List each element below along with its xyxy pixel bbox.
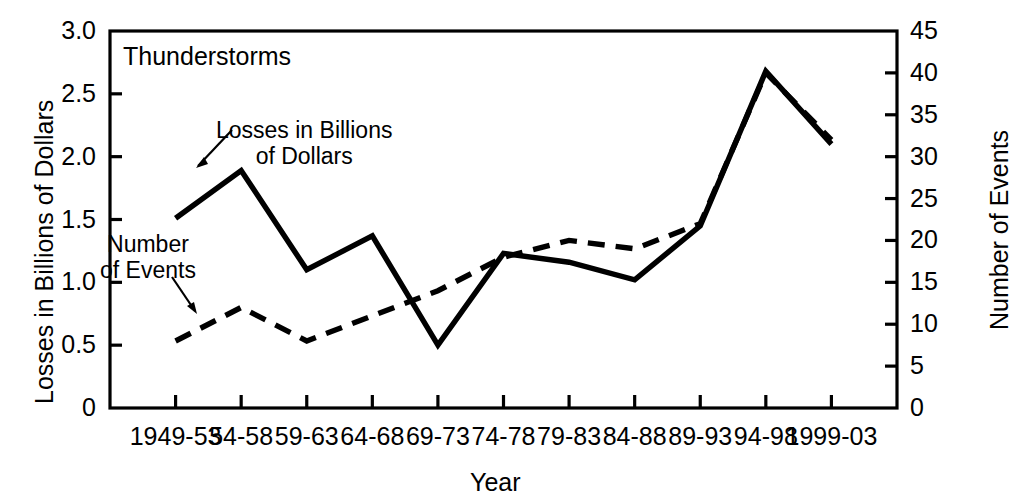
arrow-head-events <box>187 302 197 314</box>
annotation-events-line2: of Events <box>100 258 196 284</box>
y-axis-right-tick-label: 20 <box>910 225 938 254</box>
y-axis-left-tick-label: 1.0 <box>0 267 96 296</box>
y-axis-right-tick-label: 40 <box>910 58 938 87</box>
x-axis-title: Year <box>470 468 521 497</box>
y-axis-left-tick-label: 3.0 <box>0 16 96 45</box>
series-line-losses <box>176 71 832 345</box>
y-axis-left-tick-label: 1.5 <box>0 205 96 234</box>
y-axis-left-tick-label: 2.5 <box>0 79 96 108</box>
y-axis-left-tick-label: 0 <box>0 393 96 422</box>
annotation-losses-line2: of Dollars <box>216 144 392 170</box>
annotation-number-of-events: Number of Events <box>100 232 196 284</box>
y-axis-right-tick-label: 10 <box>910 309 938 338</box>
y-axis-right-tick-label: 15 <box>910 267 938 296</box>
x-axis-tick-label: 1999-03 <box>761 422 901 451</box>
y-axis-right-tick-label: 35 <box>910 100 938 129</box>
y-axis-right-tick-label: 5 <box>910 351 924 380</box>
y-axis-right-tick-label: 45 <box>910 16 938 45</box>
annotation-events-line1: Number <box>100 232 196 258</box>
y-axis-left-tick-label: 2.0 <box>0 142 96 171</box>
y-axis-right-tick-label: 25 <box>910 184 938 213</box>
y-axis-left-ticks <box>110 94 122 345</box>
y-axis-right-ticks <box>885 73 897 366</box>
y-axis-left-tick-label: 0.5 <box>0 330 96 359</box>
chart-panel-title: Thunderstorms <box>123 42 291 71</box>
series-line-number-of-events <box>176 73 832 341</box>
y-axis-right-tick-label: 30 <box>910 142 938 171</box>
y-axis-right-title: Number of Events <box>985 130 1013 330</box>
annotation-losses: Losses in Billions of Dollars <box>216 118 392 170</box>
x-axis-ticks <box>176 395 832 408</box>
y-axis-right-tick-label: 0 <box>910 393 924 422</box>
annotation-losses-line1: Losses in Billions <box>216 118 392 144</box>
